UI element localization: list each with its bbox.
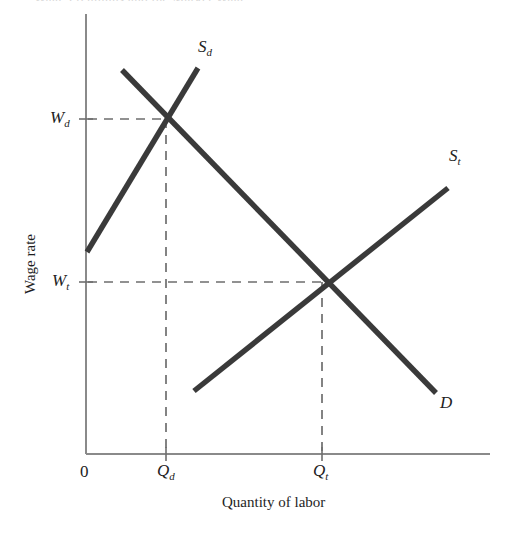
- figure-container: Wage Premiums and the Market Wage Sd St …: [0, 0, 509, 540]
- curve-label-sd-subscript: d: [207, 46, 213, 58]
- y-tick-label-wt: Wt: [52, 271, 69, 292]
- y-tick-label-wd-subscript: d: [64, 117, 70, 129]
- x-tick-label-qd: Qd: [157, 461, 175, 482]
- y-tick-label-wt-subscript: t: [66, 280, 69, 292]
- y-axis-title: Wage rate: [22, 234, 39, 294]
- curve-label-d-letter: D: [440, 393, 452, 412]
- curve-label-st-subscript: t: [458, 155, 461, 167]
- y-tick-label-wd-letter: W: [50, 108, 64, 127]
- economics-supply-demand-diagram: [0, 0, 509, 540]
- supply-curve-sd: [87, 68, 198, 252]
- x-tick-label-qd-letter: Q: [157, 461, 169, 480]
- supply-curve-st: [194, 188, 448, 391]
- x-origin-label: 0: [80, 462, 89, 482]
- curve-label-st: St: [449, 146, 461, 167]
- y-tick-label-wt-letter: W: [52, 271, 66, 290]
- x-tick-label-qt-letter: Q: [313, 461, 325, 480]
- curve-label-sd: Sd: [198, 37, 212, 58]
- x-tick-label-qd-subscript: d: [169, 470, 175, 482]
- y-tick-label-wd: Wd: [50, 108, 70, 129]
- curve-label-d: D: [440, 393, 452, 413]
- curve-label-sd-letter: S: [198, 37, 207, 56]
- x-axis-title: Quantity of labor: [222, 494, 325, 511]
- x-tick-label-qt-subscript: t: [325, 470, 328, 482]
- x-tick-label-qt: Qt: [313, 461, 328, 482]
- curve-label-st-letter: S: [449, 146, 458, 165]
